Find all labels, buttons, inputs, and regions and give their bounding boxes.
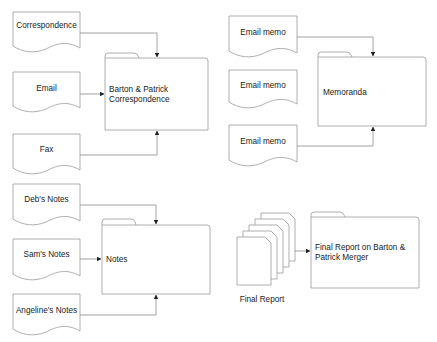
document-label: Email memo <box>240 28 286 37</box>
document-label: Sam's Notes <box>23 250 69 259</box>
document-email-memo-3[interactable]: Email memo <box>229 125 297 166</box>
document-email-memo-2[interactable]: Email memo <box>229 70 297 108</box>
folder-final-report[interactable]: Final Report on Barton & Patrick Merger <box>311 212 419 288</box>
document-label: Email memo <box>240 137 286 146</box>
multi-document-final-report[interactable]: Final Report <box>237 213 295 304</box>
document-label: Fax <box>40 145 54 154</box>
document-icon <box>13 12 80 52</box>
document-email[interactable]: Email <box>13 72 80 112</box>
page-icon <box>237 237 271 285</box>
multi-document-label: Final Report <box>240 295 285 304</box>
folder-memoranda[interactable]: Memoranda <box>318 52 426 126</box>
document-correspondence[interactable]: Correspondence <box>13 12 80 52</box>
folder-label-line2: Correspondence <box>109 95 170 104</box>
document-email-memo-1[interactable]: Email memo <box>229 16 297 57</box>
folder-label: Memoranda <box>323 88 367 97</box>
notes-group: Deb's Notes Sam's Notes Angeline's Notes… <box>13 184 210 335</box>
document-label: Correspondence <box>16 21 77 30</box>
correspondence-group: Correspondence Email Fax Barton & Patric… <box>13 12 208 174</box>
folder-label-line2: Patrick Merger <box>315 253 369 262</box>
document-fax[interactable]: Fax <box>13 134 80 174</box>
memoranda-group: Email memo Email memo Email memo Memoran… <box>229 16 426 166</box>
final-report-group: Final Report Final Report on Barton & Pa… <box>237 212 419 304</box>
folder-notes[interactable]: Notes <box>102 219 210 294</box>
folder-barton-patrick-correspondence[interactable]: Barton & Patrick Correspondence <box>105 53 208 130</box>
document-icon <box>13 239 80 280</box>
document-sams-notes[interactable]: Sam's Notes <box>13 239 80 280</box>
folder-label: Notes <box>106 255 127 264</box>
document-label: Email <box>36 84 57 93</box>
document-debs-notes[interactable]: Deb's Notes <box>13 184 80 225</box>
flowchart-diagram: Correspondence Email Fax Barton & Patric… <box>0 0 437 342</box>
folder-label-line1: Barton & Patrick <box>109 85 169 94</box>
document-label: Angeline's Notes <box>16 306 77 315</box>
connector-arrow <box>80 295 156 315</box>
document-label: Email memo <box>240 81 286 90</box>
connector-arrow <box>80 131 157 155</box>
document-angelines-notes[interactable]: Angeline's Notes <box>13 294 80 335</box>
connector-arrow <box>297 127 373 146</box>
folder-label-line1: Final Report on Barton & <box>315 243 406 252</box>
document-icon <box>13 184 80 225</box>
document-label: Deb's Notes <box>24 195 68 204</box>
